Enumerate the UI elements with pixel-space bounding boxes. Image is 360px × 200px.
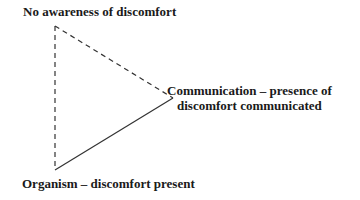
node-label-communication-line-2: discomfort communicated [167, 98, 332, 113]
node-label-communication: Communication – presence of discomfort c… [167, 83, 332, 113]
edge-bottom-right-solid [55, 98, 173, 170]
edge-top-right-dashed [55, 26, 173, 98]
node-label-communication-line-1: Communication – presence of [167, 83, 332, 98]
node-label-organism: Organism – discomfort present [22, 176, 195, 191]
node-label-no-awareness: No awareness of discomfort [23, 4, 176, 19]
